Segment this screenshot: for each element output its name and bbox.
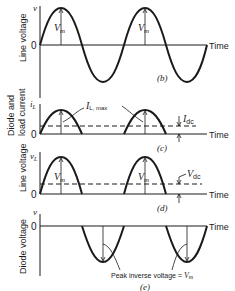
y-axis-label-line1: Diode and [6, 95, 16, 136]
rectifier-waveforms-diagram: v 0 Time Line voltage Vm Vm (b) iL 0 Tim… [0, 0, 235, 291]
time-label: Time [209, 41, 229, 51]
y-axis-symbol: iL [30, 99, 37, 110]
vm-label: Vm [54, 171, 65, 184]
zero-label: 0 [31, 40, 37, 51]
time-label: Time [209, 222, 229, 232]
vm-label: Vm [138, 171, 149, 184]
caption-d: (d) [157, 203, 168, 213]
panel-c-load-current [40, 104, 207, 142]
zero-label: 0 [31, 189, 37, 200]
time-label: Time [209, 130, 229, 140]
panel-b-line-voltage [40, 6, 207, 98]
y-axis-symbol: v [33, 207, 37, 217]
caption-c: (c) [157, 143, 167, 153]
y-axis-label-line2: load current [17, 88, 27, 136]
peak-inverse-voltage-label: Peak inverse voltage = Vm [111, 271, 194, 280]
y-axis-label: Diode voltage [18, 219, 28, 274]
caption-b: (b) [157, 73, 168, 83]
panel-e-diode-voltage [40, 214, 207, 276]
vm-label: Vm [54, 22, 65, 35]
idc-label: Idc [182, 113, 194, 125]
zero-label: 0 [31, 129, 37, 140]
y-axis-symbol: vL [30, 151, 38, 162]
y-axis-label: Line voltage [18, 13, 28, 62]
time-label: Time [209, 190, 229, 200]
il-max-label: IL, max [85, 100, 107, 111]
zero-label: 0 [31, 221, 37, 232]
vdc-label: Vdc [187, 168, 201, 180]
caption-e: (e) [140, 282, 150, 291]
vm-label: Vm [138, 22, 149, 35]
y-axis-symbol: v [33, 3, 37, 13]
y-axis-label: Line voltage [18, 143, 28, 192]
